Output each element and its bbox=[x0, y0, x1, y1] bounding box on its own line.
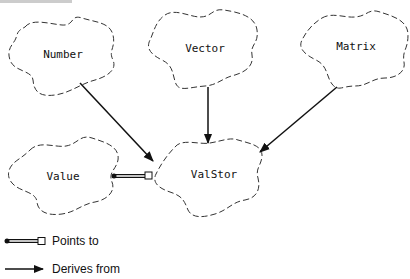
node-vector: Vector bbox=[149, 10, 258, 89]
node-label: Value bbox=[46, 170, 79, 183]
edge-value-to-valstor bbox=[112, 172, 153, 179]
point-target-square-icon bbox=[145, 172, 152, 179]
node-label: ValStor bbox=[191, 168, 238, 181]
legend-points-to-symbol-icon bbox=[5, 238, 46, 245]
node-label: Number bbox=[43, 48, 83, 61]
node-label: Matrix bbox=[336, 40, 376, 53]
legend: Points to Derives from bbox=[5, 234, 121, 276]
edge-matrix-to-valstor bbox=[260, 87, 337, 152]
cropped-text-fragment bbox=[0, 0, 72, 3]
legend-derives-from-label: Derives from bbox=[52, 262, 120, 276]
node-number: Number bbox=[9, 17, 114, 95]
node-label: Vector bbox=[185, 42, 225, 55]
node-matrix: Matrix bbox=[301, 11, 408, 88]
legend-points-to-label: Points to bbox=[52, 234, 99, 248]
class-diagram: Number Vector Matrix Value ValStor bbox=[0, 0, 410, 279]
node-valstor: ValStor bbox=[155, 139, 262, 217]
point-origin-dot-icon bbox=[112, 174, 117, 179]
node-value: Value bbox=[9, 137, 119, 214]
